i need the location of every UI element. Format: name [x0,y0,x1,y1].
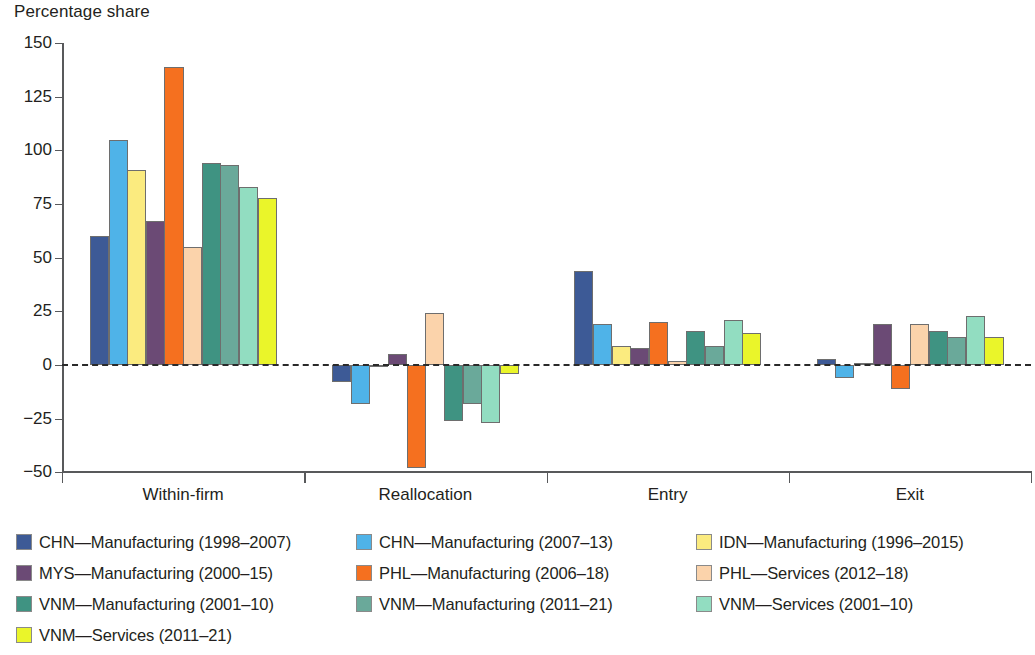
chart-bar [164,67,183,365]
y-axis-line [62,43,64,472]
y-axis-tick-mark [55,365,62,366]
chart-bar [332,365,351,382]
chart-bar [90,236,109,365]
legend-color-swatch-icon [16,627,32,643]
legend-item-label: CHN—Manufacturing (2007–13) [379,533,613,552]
legend-color-swatch-icon [356,596,372,612]
legend-item[interactable]: MYS—Manufacturing (2000–15) [16,558,273,588]
chart-bar [220,165,239,365]
legend-item[interactable]: VNM—Services (2011–21) [16,620,232,650]
chart-bar [742,333,761,365]
legend-item[interactable]: IDN—Manufacturing (1996–2015) [696,527,964,557]
legend-color-swatch-icon [356,565,372,581]
chart-bar [630,348,649,365]
legend-item-label: IDN—Manufacturing (1996–2015) [719,533,964,552]
x-axis-category-label: Within-firm [143,485,224,505]
y-axis-tick-label: 150 [8,34,52,51]
legend-item-label: CHN—Manufacturing (1998–2007) [39,533,291,552]
y-axis-tick-label: 25 [8,302,52,319]
legend-item[interactable]: VNM—Services (2001–10) [696,589,913,619]
legend-item-label: PHL—Services (2012–18) [719,564,908,583]
chart-bar [183,247,202,365]
chart-bar [407,365,426,468]
y-axis-tick-labels: 1501251007550250−25−50 [0,0,52,520]
chart-bar [258,198,277,365]
y-axis-tick-mark [55,43,62,44]
chart-bar [463,365,482,404]
legend-color-swatch-icon [696,534,712,550]
chart-bar [425,313,444,365]
y-axis-tick-label: 125 [8,88,52,105]
chart-bar [109,140,128,365]
chart-bar [127,170,146,365]
chart-bar [612,346,631,365]
chart-bar [724,320,743,365]
chart-bar [500,365,519,374]
y-axis-tick-mark [55,97,62,98]
chart-bar [947,337,966,365]
chart-bar [891,365,910,389]
legend-item-label: VNM—Manufacturing (2001–10) [39,595,274,614]
chart-bar [593,324,612,365]
y-axis-tick-label: 0 [8,356,52,373]
x-axis-category-label: Reallocation [379,485,473,505]
x-axis-end-tick [62,471,63,483]
legend-item-label: VNM—Services (2001–10) [719,595,913,614]
legend-item[interactable]: VNM—Manufacturing (2011–21) [356,589,613,619]
legend-color-swatch-icon [16,534,32,550]
y-axis-tick-label: −25 [8,410,52,427]
x-axis-group-separator [547,471,548,483]
legend-item[interactable]: PHL—Manufacturing (2006–18) [356,558,609,588]
chart-bar [239,187,258,365]
y-axis-tick-label: 50 [8,249,52,266]
chart-bar [835,365,854,378]
y-axis-tick-mark [55,419,62,420]
chart-bar [929,331,948,365]
y-axis-tick-label: 100 [8,141,52,158]
y-axis-tick-mark [55,311,62,312]
legend-item[interactable]: CHN—Manufacturing (1998–2007) [16,527,291,557]
legend-item-label: PHL—Manufacturing (2006–18) [379,564,609,583]
chart-legend: CHN—Manufacturing (1998–2007)CHN—Manufac… [16,527,1035,651]
x-axis-group-separator [789,471,790,483]
legend-item-label: VNM—Services (2011–21) [39,626,232,645]
x-axis-category-label: Exit [896,485,924,505]
chart-bar [910,324,929,365]
chart-bar [146,221,165,365]
legend-item[interactable]: PHL—Services (2012–18) [696,558,908,588]
x-axis-end-tick [1031,471,1032,483]
chart-bar [686,331,705,365]
legend-color-swatch-icon [356,534,372,550]
legend-item-label: MYS—Manufacturing (2000–15) [39,564,273,583]
legend-item[interactable]: CHN—Manufacturing (2007–13) [356,527,613,557]
chart-bar [574,271,593,365]
y-axis-tick-mark [55,204,62,205]
y-axis-tick-mark [55,472,62,473]
chart-bar [202,163,221,365]
legend-item[interactable]: VNM—Manufacturing (2001–10) [16,589,274,619]
y-axis-tick-mark [55,258,62,259]
legend-color-swatch-icon [16,596,32,612]
y-axis-tick-label: −50 [8,463,52,480]
legend-item-label: VNM—Manufacturing (2011–21) [379,595,613,614]
legend-color-swatch-icon [696,565,712,581]
y-axis-tick-label: 75 [8,195,52,212]
chart-bar [873,324,892,365]
legend-color-swatch-icon [16,565,32,581]
chart-bar [705,346,724,365]
zero-reference-line [62,364,1031,366]
x-axis-group-separator [304,471,305,483]
legend-color-swatch-icon [696,596,712,612]
chart-bar [966,316,985,365]
chart-bar [444,365,463,421]
chart-bar [984,337,1003,365]
chart-bar [649,322,668,365]
x-axis-category-label: Entry [648,485,688,505]
y-axis-tick-mark [55,150,62,151]
chart-bar [481,365,500,423]
chart-bar [351,365,370,404]
chart-plot-area: 1501251007550250−25−50 Within-firmReallo… [0,0,1035,520]
